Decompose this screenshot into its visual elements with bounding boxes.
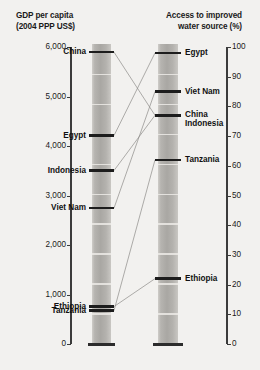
- bar-band: [92, 283, 111, 285]
- water-tick-mark: [227, 314, 231, 315]
- connector-ethiopia: [114, 279, 155, 307]
- marker-label: Tanzania: [20, 306, 86, 315]
- water-tick-mark: [227, 255, 231, 256]
- water-tick-mark: [227, 344, 231, 345]
- bar-band: [92, 253, 111, 255]
- marker-label-group: Ethiopia: [185, 274, 255, 283]
- marker-label-group: ChinaIndonesia: [185, 110, 255, 128]
- bar-band: [158, 283, 178, 285]
- water-tick-label: 0: [232, 339, 237, 348]
- marker-label-group: Indonesia: [20, 166, 86, 175]
- gdp-tick-mark: [67, 146, 71, 147]
- gdp-bar-base: [88, 343, 115, 346]
- gdp-tick-mark: [67, 344, 71, 345]
- gdp-tick-label: 3,000: [46, 191, 67, 200]
- bar-band: [92, 164, 111, 166]
- marker-label-group: Egypt: [20, 131, 86, 140]
- water-axis-heading-line2: water source (%): [166, 22, 242, 33]
- marker-label-group: Egypt: [185, 48, 255, 57]
- water-tick-label: 50: [232, 191, 241, 200]
- gdp-tick-mark: [67, 295, 71, 296]
- slope-chart: GDP per capita (2004 PPP US$) Access to …: [0, 0, 260, 370]
- marker-label: Indonesia: [20, 166, 86, 175]
- water-tick-label: 30: [232, 250, 241, 259]
- water-tick-mark: [227, 106, 231, 107]
- marker-viet-nam: [155, 90, 181, 93]
- water-tick-mark: [227, 285, 231, 286]
- marker-label-group: China: [20, 47, 86, 56]
- marker-label: Tanzania: [185, 155, 255, 164]
- marker-tanzania: [155, 159, 181, 162]
- water-tick-label: 70: [232, 131, 241, 140]
- bar-band: [158, 104, 178, 106]
- connector-china: [114, 52, 155, 115]
- bar-band: [158, 253, 178, 255]
- bar-band: [92, 74, 111, 76]
- bar-band: [92, 313, 111, 315]
- marker-label: Egypt: [185, 48, 255, 57]
- water-bar-base: [153, 343, 183, 346]
- marker-indonesia: [89, 169, 114, 172]
- gdp-tick-mark: [67, 196, 71, 197]
- bar-band: [158, 223, 178, 225]
- water-bar: [158, 44, 178, 343]
- connector-tanzania: [114, 160, 155, 311]
- marker-viet-nam: [89, 207, 114, 210]
- marker-label-group: Tanzania: [20, 306, 86, 315]
- marker-label-group: Viet Nam: [185, 87, 255, 96]
- water-tick-mark: [227, 166, 231, 167]
- marker-label: China: [20, 47, 86, 56]
- bar-band: [158, 313, 178, 315]
- marker-label: Egypt: [20, 131, 86, 140]
- marker-label: Viet Nam: [20, 203, 86, 212]
- bar-band: [158, 164, 178, 166]
- gdp-tick-label: 0: [61, 339, 66, 348]
- marker-ethiopia: [89, 305, 114, 308]
- marker-label: Indonesia: [185, 119, 255, 128]
- bar-band: [92, 194, 111, 196]
- bar-band: [92, 104, 111, 106]
- water-axis-heading: Access to improved water source (%): [166, 11, 242, 32]
- bar-band: [92, 223, 111, 225]
- marker-label-group: Tanzania: [185, 155, 255, 164]
- water-tick-mark: [227, 225, 231, 226]
- connector-viet-nam: [114, 92, 155, 209]
- bar-band: [158, 74, 178, 76]
- gdp-axis-heading-line2: (2004 PPP US$): [16, 22, 75, 33]
- marker-china-indonesia: [155, 114, 181, 117]
- marker-egypt: [155, 52, 181, 55]
- connector-indonesia: [114, 115, 155, 170]
- bar-band: [158, 194, 178, 196]
- marker-label-group: Viet Nam: [20, 203, 86, 212]
- water-tick-mark: [227, 77, 231, 78]
- gdp-tick-label: 1,000: [46, 290, 67, 299]
- marker-label: Ethiopia: [185, 274, 255, 283]
- connector-egypt: [114, 53, 155, 136]
- marker-label: Viet Nam: [185, 87, 255, 96]
- marker-china: [89, 51, 114, 54]
- water-tick-label: 10: [232, 309, 241, 318]
- gdp-tick-mark: [67, 245, 71, 246]
- water-tick-mark: [227, 136, 231, 137]
- gdp-axis-heading: GDP per capita (2004 PPP US$): [16, 11, 75, 32]
- water-tick-mark: [227, 196, 231, 197]
- gdp-tick-label: 5,000: [46, 92, 67, 101]
- water-axis-heading-line1: Access to improved: [166, 11, 242, 22]
- gdp-tick-mark: [67, 97, 71, 98]
- gdp-tick-label: 2,000: [46, 240, 67, 249]
- marker-ethiopia: [155, 277, 181, 280]
- marker-label: China: [185, 110, 255, 119]
- bar-band: [158, 134, 178, 136]
- gdp-tick-label: 4,000: [46, 141, 67, 150]
- water-tick-label: 90: [232, 72, 241, 81]
- gdp-axis-heading-line1: GDP per capita: [16, 11, 75, 22]
- marker-tanzania: [89, 309, 114, 312]
- water-tick-label: 40: [232, 220, 241, 229]
- gdp-bar: [92, 44, 111, 343]
- marker-egypt: [89, 134, 114, 137]
